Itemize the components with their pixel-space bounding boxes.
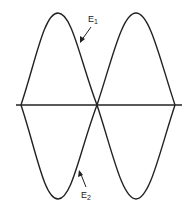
- waveform-e1: [21, 13, 175, 105]
- waveform-e2: [21, 105, 175, 199]
- e1-pointer-arrow: [80, 27, 91, 43]
- e2-label: E2: [81, 190, 91, 201]
- waveform-diagram: E1 E2: [0, 0, 190, 215]
- e2-pointer-arrow: [78, 170, 86, 187]
- e1-label: E1: [88, 14, 98, 25]
